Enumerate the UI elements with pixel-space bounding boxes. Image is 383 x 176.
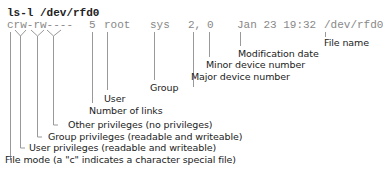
label-group: Group <box>150 82 178 93</box>
label-user-privileges: User privileges (readable and writeable) <box>29 142 216 153</box>
label-major-device: Major device number <box>191 71 290 82</box>
label-user: User <box>104 93 125 104</box>
label-modification-date: Modification date <box>238 48 319 59</box>
label-other-privileges: Other privileges (no privileges) <box>68 119 212 130</box>
label-file-mode: File mode (a "c" indicates a character s… <box>5 154 236 165</box>
label-number-of-links: Number of links <box>89 105 163 116</box>
label-group-privileges: Group privileges (readable and writeable… <box>48 131 242 142</box>
label-file-name: File name <box>324 37 369 48</box>
label-minor-device: Minor device number <box>206 59 305 70</box>
